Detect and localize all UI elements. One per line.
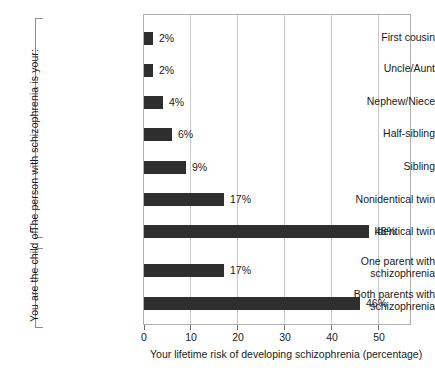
tick-mark-0 [144,325,145,330]
group-label-upper: The person with schizophrenia is your: [28,49,40,232]
category-label: First cousin [295,32,435,44]
tick-mark-50 [378,325,379,330]
bar-value: 2% [159,64,174,77]
bar-nonidentical-twin [144,193,224,206]
tick-mark-40 [331,325,332,330]
tick-mark-30 [284,325,285,330]
tick-label: 30 [265,331,305,343]
bar-value: 4% [169,96,184,109]
bar-uncle-aunt [144,64,153,77]
bar-sibling [144,161,186,174]
category-label: Half-sibling [295,128,435,140]
gridline-10 [190,15,191,324]
category-label: Sibling [295,161,435,173]
tick-label: 50 [359,331,399,343]
bar-value: 9% [192,161,207,174]
category-label: One parent with schizophrenia [295,256,435,279]
gridline-20 [237,15,238,324]
group-label-lower: You are the child of: [28,227,40,322]
bar-half-sibling [144,128,172,141]
tick-label: 40 [312,331,352,343]
bar-one-parent [144,264,224,277]
category-label: Nephew/Niece [295,96,435,108]
tick-mark-10 [190,325,191,330]
tick-label: 20 [218,331,258,343]
bar-identical-twin [144,225,369,238]
bar-value: 6% [178,128,193,141]
tick-label: 0 [124,331,164,343]
bar-nephew-niece [144,96,163,109]
category-label: Uncle/Aunt [295,63,435,75]
x-axis-title: Your lifetime risk of developing schizop… [150,348,422,360]
gridline-30 [284,15,285,324]
tick-mark-20 [237,325,238,330]
category-label: Nonidentical twin [295,194,435,206]
bar-value: 17% [230,193,251,206]
bar-value: 46% [366,297,387,310]
tick-label: 10 [171,331,211,343]
bar-value: 2% [159,32,174,45]
schizophrenia-risk-bar-chart: The person with schizophrenia is your: Y… [0,0,435,373]
bar-value: 17% [230,264,251,277]
bar-both-parents [144,297,360,310]
bar-value: 48% [375,225,396,238]
bar-first-cousin [144,32,153,45]
